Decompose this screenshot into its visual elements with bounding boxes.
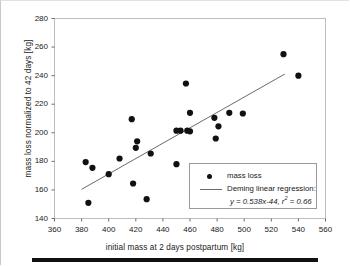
data-point xyxy=(83,159,89,165)
data-point xyxy=(134,138,140,144)
data-point xyxy=(187,128,193,134)
data-point xyxy=(148,150,154,156)
legend-line-icon xyxy=(198,183,224,195)
x-tick-label: 440 xyxy=(148,225,178,234)
data-point xyxy=(183,80,189,86)
legend-label-regression: Deming linear regression: xyxy=(227,184,316,193)
x-tick-label: 500 xyxy=(229,225,259,234)
data-point xyxy=(177,128,183,134)
chart-legend: mass loss Deming linear regression: y = … xyxy=(189,163,317,209)
x-tick-label: 480 xyxy=(202,225,232,234)
data-point xyxy=(89,165,95,171)
data-point xyxy=(213,135,219,141)
legend-item-regression: Deming linear regression: xyxy=(190,183,318,195)
x-tick-label: 460 xyxy=(175,225,205,234)
x-tick-label: 540 xyxy=(283,225,313,234)
data-point xyxy=(85,200,91,206)
data-point xyxy=(240,110,246,116)
equation-prefix: y = 0.538x-44, r xyxy=(230,197,284,206)
legend-item-mass-loss: mass loss xyxy=(190,170,318,182)
y-tick-label: 140 xyxy=(20,214,48,223)
legend-marker-icon xyxy=(198,170,224,182)
data-point xyxy=(130,180,136,186)
x-tick-label: 560 xyxy=(311,225,341,234)
data-point xyxy=(129,116,135,122)
figure-container: 140160180200220240260280 360380400420440… xyxy=(0,0,350,266)
data-point xyxy=(116,155,122,161)
data-point xyxy=(226,110,232,116)
data-point xyxy=(133,145,139,151)
data-point xyxy=(211,115,217,121)
x-tick-label: 520 xyxy=(256,225,286,234)
x-tick-label: 400 xyxy=(94,225,124,234)
scatter-chart: 140160180200220240260280 360380400420440… xyxy=(0,0,350,240)
equation-suffix: = 0.66 xyxy=(288,197,312,206)
x-tick-label: 360 xyxy=(40,225,70,234)
bottom-rule xyxy=(32,258,318,262)
data-point xyxy=(106,171,112,177)
data-point xyxy=(295,73,301,79)
data-point xyxy=(215,123,221,129)
y-axis-title: mass loss normalized to 42 days [kg] xyxy=(24,9,33,209)
data-point xyxy=(144,196,150,202)
x-tick-label: 420 xyxy=(121,225,151,234)
legend-label-mass-loss: mass loss xyxy=(227,171,262,180)
x-axis-title: initial mass at 2 days postpartum [kg] xyxy=(0,243,350,252)
legend-equation: y = 0.538x-44, r2 = 0.66 xyxy=(230,195,312,206)
x-tick-label: 380 xyxy=(67,225,97,234)
data-point xyxy=(187,110,193,116)
data-point xyxy=(173,161,179,167)
data-point xyxy=(280,51,286,57)
